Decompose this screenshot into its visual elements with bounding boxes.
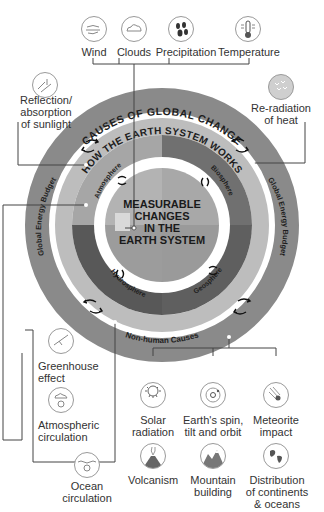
label-line: Greenhouse — [38, 360, 98, 372]
label-line: Meteorite — [246, 414, 306, 426]
earth-spin-label: Earth's spin, tilt and orbit — [183, 414, 243, 438]
label-line: Re-radiation — [248, 102, 314, 114]
reflection-label: Reflection/ absorption of sunlight — [10, 94, 82, 130]
label-line: absorption — [10, 106, 82, 118]
globe-icon — [263, 443, 289, 469]
label-line: impact — [246, 426, 306, 438]
precipitation-icon — [168, 16, 194, 42]
label-line: Ocean — [58, 480, 116, 492]
reradiation-label: Re-radiation of heat — [248, 102, 314, 126]
center-title: MEASURABLE CHANGES IN THE EARTH SYSTEM — [112, 198, 212, 246]
orbit-icon — [200, 382, 226, 408]
atmospheric-circulation-label: Atmospheric circulation — [38, 419, 108, 443]
label-line: of continents — [244, 486, 310, 498]
label-line: Mountain — [186, 474, 240, 486]
temperature-label: Temperature — [218, 46, 280, 58]
label-line: Solar — [126, 414, 180, 426]
label-line: tilt and orbit — [183, 426, 243, 438]
meteorite-icon — [263, 382, 289, 408]
solar-radiation-label: Solar radiation — [126, 414, 180, 438]
label-line: circulation — [38, 431, 108, 443]
label-line: Atmospheric — [38, 419, 108, 431]
continents-distribution-label: Distribution of continents & oceans — [244, 474, 310, 510]
label-line: of sunlight — [10, 118, 82, 130]
mountain-building-label: Mountain building — [186, 474, 240, 498]
label-line: Distribution — [244, 474, 310, 486]
heat-radiation-icon — [268, 74, 294, 100]
label-line: circulation — [58, 492, 116, 504]
label-line: Reflection/ — [10, 94, 82, 106]
label-line: of heat — [248, 114, 314, 126]
label-line: radiation — [126, 426, 180, 438]
wind-label: Wind — [75, 46, 113, 58]
ocean-circulation-icon — [74, 452, 100, 478]
mountain-icon — [200, 443, 226, 469]
clouds-icon — [121, 16, 147, 42]
atmospheric-circulation-icon — [48, 387, 74, 413]
greenhouse-icon — [48, 328, 74, 354]
precipitation-label: Precipitation — [155, 46, 217, 58]
center-line: EARTH SYSTEM — [112, 234, 212, 246]
clouds-label: Clouds — [112, 46, 156, 58]
label-line: building — [186, 486, 240, 498]
volcanism-label: Volcanism — [126, 474, 180, 486]
wind-icon — [81, 16, 107, 42]
center-line: IN THE — [112, 222, 212, 234]
label-line: Earth's spin, — [183, 414, 243, 426]
center-line: CHANGES — [112, 210, 212, 222]
label-line: & oceans — [244, 498, 310, 510]
meteorite-label: Meteorite impact — [246, 414, 306, 438]
volcano-icon — [140, 443, 166, 469]
thermometer-icon — [235, 16, 261, 42]
ocean-circulation-label: Ocean circulation — [58, 480, 116, 504]
sun-icon — [140, 382, 166, 408]
center-line: MEASURABLE — [112, 198, 212, 210]
label-line: effect — [38, 372, 98, 384]
greenhouse-label: Greenhouse effect — [38, 360, 98, 384]
